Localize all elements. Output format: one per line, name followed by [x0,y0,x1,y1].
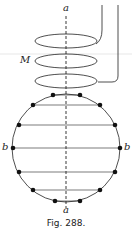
coil-lead-right [98,5,118,82]
chords [13,95,120,201]
figure-diagram [0,0,132,234]
figure-caption: Fig. 288. [0,218,132,228]
coil-lead-left [96,5,102,44]
label-right: b [124,141,130,152]
label-left: b [2,141,8,152]
label-axis-bottom: a [63,204,69,215]
label-axis-top: a [63,2,69,13]
label-coil: M [20,54,30,65]
